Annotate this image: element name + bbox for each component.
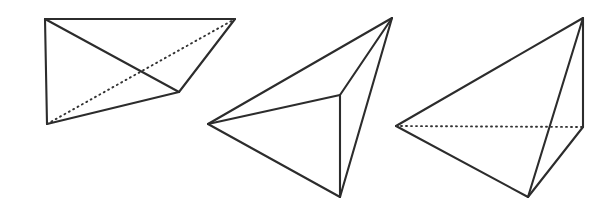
diagram-background — [0, 0, 614, 208]
figure-canvas — [0, 0, 614, 208]
tetrahedra-diagram — [0, 0, 614, 208]
